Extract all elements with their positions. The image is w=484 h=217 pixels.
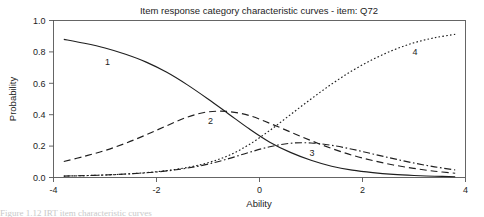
figure-container: Item response category characteristic cu… xyxy=(0,0,484,217)
y-tick-label: 0.2 xyxy=(33,141,46,151)
x-tick-label: 2 xyxy=(360,185,365,195)
curve-label-2: 2 xyxy=(208,116,213,126)
irt-category-curves-chart: Item response category characteristic cu… xyxy=(0,0,484,217)
y-axis-label: Probability xyxy=(7,77,18,122)
curve-label-3: 3 xyxy=(310,148,315,158)
curve-label-4: 4 xyxy=(413,47,418,57)
chart-background xyxy=(0,0,484,217)
y-tick-label: 0.4 xyxy=(33,110,46,120)
y-tick-label: 0.6 xyxy=(33,79,46,89)
x-tick-label: 4 xyxy=(463,185,468,195)
x-tick-label: -2 xyxy=(152,185,160,195)
x-tick-label: 0 xyxy=(257,185,262,195)
x-tick-label: -4 xyxy=(49,185,57,195)
chart-title: Item response category characteristic cu… xyxy=(140,5,378,16)
curve-label-1: 1 xyxy=(105,57,110,67)
y-tick-label: 0.0 xyxy=(33,173,46,183)
page-caption-fragment: Figure 1.12 IRT item characteristic curv… xyxy=(0,208,484,217)
y-tick-label: 0.8 xyxy=(33,47,46,57)
y-tick-label: 1.0 xyxy=(33,16,46,26)
